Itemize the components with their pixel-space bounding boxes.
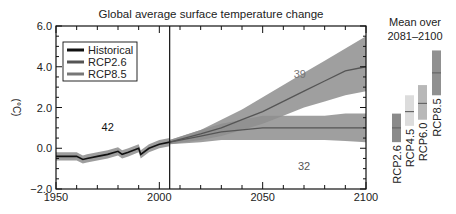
y-tick-label: 4.0 [37,61,52,73]
legend-label-rcp8.5: RCP8.5 [88,68,127,80]
range-bar-rcp4.5 [405,95,414,126]
uncertainty-band-historical [56,138,170,163]
model-count-historical: 42 [102,121,114,133]
x-tick-label: 2050 [250,191,274,203]
y-tick-label: 6.0 [37,20,52,32]
chart-title: Global average surface temperature chang… [98,8,323,20]
range-bar-label-rcp6.0: RCP6.0 [417,123,429,162]
range-bar-label-rcp8.5: RCP8.5 [431,98,443,137]
range-bar-rcp6.0 [418,85,427,120]
model-count-rcp26: 32 [298,160,310,172]
x-tick-label: 2100 [354,191,378,203]
side-panel-title-2: 2081–2100 [387,30,442,42]
y-axis-label: (°C) [11,99,22,117]
y-tick-label: 0.0 [37,142,52,154]
model-count-rcp85: 39 [294,68,306,80]
chart-canvas: Global average surface temperature chang… [0,0,456,214]
range-bar-label-rcp2.6: RCP2.6 [391,145,403,184]
range-bar-label-rcp4.5: RCP4.5 [404,129,416,168]
legend-label-rcp2.6: RCP2.6 [88,56,127,68]
legend-label-historical: Historical [88,44,133,56]
y-tick-label: 2.0 [37,102,52,114]
y-tick-label: −2.0 [30,183,52,195]
x-tick-label: 2000 [147,191,171,203]
side-panel-title-1: Mean over [389,16,441,28]
